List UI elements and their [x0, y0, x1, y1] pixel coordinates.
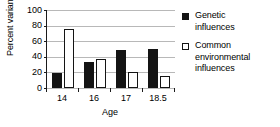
- legend-swatch-genetic-icon: [182, 13, 189, 20]
- bar: [116, 50, 127, 88]
- y-tick-label: 100: [14, 6, 42, 15]
- legend-swatch-common-environmental-icon: [182, 43, 189, 50]
- legend-label-common-line2: environmental: [195, 52, 278, 64]
- x-tick-mark: [174, 88, 175, 92]
- bar-group: [52, 10, 75, 88]
- chart-figure: Percent variance 020406080100 14161718.5…: [0, 0, 280, 127]
- legend-label-genetic-line2: influences: [195, 22, 278, 34]
- y-tick-label: 20: [14, 68, 42, 77]
- plot-area: [46, 10, 175, 89]
- y-axis-tick-labels: 020406080100: [14, 6, 42, 94]
- bar-group: [116, 10, 139, 88]
- x-tick-label: 18.5: [149, 93, 167, 104]
- x-axis-title: Age: [46, 107, 174, 118]
- y-tick-label: 60: [14, 37, 42, 46]
- y-tick-label: 0: [14, 84, 42, 93]
- legend-item-common-environmental: Common environmental influences: [182, 40, 278, 75]
- x-axis-tick-labels: 14161718.5: [46, 93, 174, 105]
- x-tick-label: 14: [57, 93, 67, 104]
- legend-item-genetic: Genetic influences: [182, 10, 278, 33]
- legend-label-common-line3: influences: [195, 63, 278, 75]
- bar-group: [84, 10, 107, 88]
- bar: [64, 29, 75, 88]
- bar: [128, 72, 139, 88]
- chart-legend: Genetic influences Common environmental …: [182, 10, 278, 82]
- x-tick-mark: [78, 88, 79, 92]
- bar: [148, 49, 159, 88]
- legend-label-common-line1: Common: [195, 40, 278, 52]
- x-tick-label: 16: [89, 93, 99, 104]
- x-tick-mark: [110, 88, 111, 92]
- bar-group: [148, 10, 171, 88]
- bar-groups: [47, 10, 175, 88]
- bar: [52, 73, 63, 88]
- legend-label-genetic-line1: Genetic: [195, 10, 278, 22]
- x-tick-mark: [46, 88, 47, 92]
- x-tick-label: 17: [121, 93, 131, 104]
- bar: [84, 62, 95, 88]
- bar: [96, 59, 107, 88]
- x-tick-mark: [142, 88, 143, 92]
- y-tick-label: 40: [14, 52, 42, 61]
- bar: [160, 76, 171, 88]
- y-tick-label: 80: [14, 21, 42, 30]
